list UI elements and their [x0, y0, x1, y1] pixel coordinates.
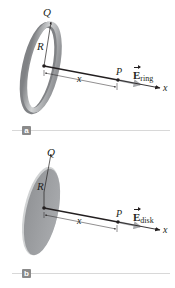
panel-divider — [12, 273, 170, 274]
panel-disk: Q R x P Edisk x b — [0, 144, 175, 288]
panel-badge: b — [22, 269, 31, 278]
ring-icon — [16, 21, 66, 114]
radius-label: R — [37, 181, 44, 192]
point-label: P — [116, 209, 122, 219]
panel-ring: Q R x P Ering x a — [0, 0, 175, 144]
axis-label: x — [163, 83, 167, 93]
center-dot — [42, 64, 46, 68]
field-label: Edisk — [133, 208, 154, 224]
panel-divider — [12, 130, 170, 131]
axis-label: x — [163, 225, 167, 235]
panel-badge: a — [22, 126, 31, 135]
charge-label: Q — [43, 7, 51, 18]
point-label: P — [116, 67, 122, 77]
distance-label: x — [77, 216, 81, 226]
charge-label: Q — [47, 147, 55, 158]
radius-label: R — [37, 41, 44, 52]
center-dot — [42, 206, 46, 210]
field-label: Ering — [133, 66, 153, 82]
distance-label: x — [77, 74, 81, 84]
